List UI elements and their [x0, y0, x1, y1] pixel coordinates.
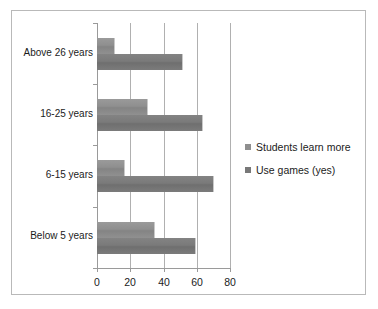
bar-use-games-yes-above-26-years: [97, 54, 183, 70]
bar-students-learn-more-16-25-years: [97, 99, 148, 115]
bar-group-16-25-years: [97, 84, 230, 145]
legend-swatch-icon-use-games-yes: [245, 167, 251, 173]
bar-use-games-yes-below-5-years: [97, 238, 196, 254]
gridline-80: [230, 23, 231, 268]
category-label-16-25-years: 16-25 years: [13, 108, 93, 119]
x-axis-tick-labels: 0 20 40 60 80: [97, 268, 230, 288]
bar-group-below-5-years: [97, 207, 230, 268]
chart-legend: Students learn more Use games (yes): [245, 141, 365, 187]
x-tick-label-60: 60: [191, 276, 203, 288]
bar-students-learn-more-below-5-years: [97, 222, 155, 238]
y-axis-category-labels: Above 26 years 16-25 years 6-15 years Be…: [12, 23, 93, 268]
x-tick-label-40: 40: [158, 276, 170, 288]
category-label-6-15-years: 6-15 years: [13, 169, 93, 180]
bar-group-above-26-years: [97, 23, 230, 84]
category-label-below-5-years: Below 5 years: [13, 230, 93, 241]
legend-label-use-games-yes: Use games (yes): [256, 164, 335, 176]
bar-students-learn-more-6-15-years: [97, 160, 125, 176]
x-tick-label-80: 80: [224, 276, 236, 288]
bar-group-6-15-years: [97, 145, 230, 207]
bar-use-games-yes-16-25-years: [97, 115, 203, 131]
legend-item-use-games-yes[interactable]: Use games (yes): [245, 164, 365, 176]
chart-frame: Above 26 years 16-25 years 6-15 years Be…: [11, 10, 366, 295]
x-tick-80: [230, 268, 231, 272]
bar-students-learn-more-above-26-years: [97, 38, 115, 54]
x-tick-label-0: 0: [94, 276, 100, 288]
category-label-above-26-years: Above 26 years: [13, 47, 93, 58]
legend-label-students-learn-more: Students learn more: [256, 141, 351, 153]
plot-area: [97, 23, 230, 268]
x-tick-label-20: 20: [124, 276, 136, 288]
legend-swatch-icon-students-learn-more: [245, 144, 251, 150]
bar-use-games-yes-6-15-years: [97, 176, 214, 192]
legend-item-students-learn-more[interactable]: Students learn more: [245, 141, 365, 153]
